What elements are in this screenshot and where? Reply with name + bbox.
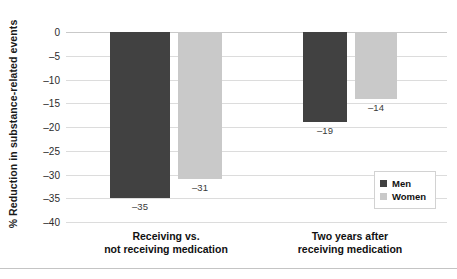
x-category-label-1-line-1: Receiving vs. bbox=[104, 230, 228, 243]
bar-men-receiving[interactable] bbox=[110, 32, 170, 198]
y-tick-2: –10 bbox=[6, 74, 60, 85]
bar-value-women-two-years: –14 bbox=[368, 102, 384, 113]
bar-men-two-years[interactable] bbox=[303, 32, 347, 122]
bar-women-receiving[interactable] bbox=[178, 32, 222, 179]
y-tick-6: –30 bbox=[6, 169, 60, 180]
bar-chart-figure: % Reduction in substance-related events … bbox=[0, 0, 457, 279]
y-tick-5: –25 bbox=[6, 145, 60, 156]
y-axis-tick-labels: 0 –5 –10 –15 –20 –25 –30 –35 –40 bbox=[0, 32, 60, 222]
bar-women-two-years[interactable] bbox=[355, 32, 397, 99]
x-category-label-2-line-1: Two years after bbox=[298, 230, 402, 243]
x-category-label-1-line-2: not receiving medication bbox=[104, 243, 228, 256]
bar-value-women-receiving: –31 bbox=[192, 182, 208, 193]
y-tick-1: –5 bbox=[6, 50, 60, 61]
figure-bottom-divider bbox=[0, 268, 457, 269]
legend-item-women[interactable]: Women bbox=[380, 190, 429, 203]
legend-swatch-women-icon bbox=[380, 193, 387, 200]
legend-label-women: Women bbox=[392, 191, 426, 202]
x-category-label-2: Two years after receiving medication bbox=[298, 230, 402, 256]
legend: Men Women bbox=[374, 171, 436, 209]
legend-label-men: Men bbox=[392, 178, 411, 189]
y-tick-0: 0 bbox=[6, 27, 60, 38]
y-tick-4: –20 bbox=[6, 122, 60, 133]
bar-value-men-receiving: –35 bbox=[132, 201, 148, 212]
y-tick-8: –40 bbox=[6, 217, 60, 228]
bar-value-men-two-years: –19 bbox=[317, 125, 333, 136]
x-category-label-1: Receiving vs. not receiving medication bbox=[104, 230, 228, 256]
y-tick-3: –15 bbox=[6, 98, 60, 109]
gridline-40 bbox=[66, 222, 447, 223]
x-category-label-2-line-2: receiving medication bbox=[298, 243, 402, 256]
y-tick-7: –35 bbox=[6, 193, 60, 204]
legend-swatch-men-icon bbox=[380, 180, 387, 187]
legend-item-men[interactable]: Men bbox=[380, 177, 429, 190]
